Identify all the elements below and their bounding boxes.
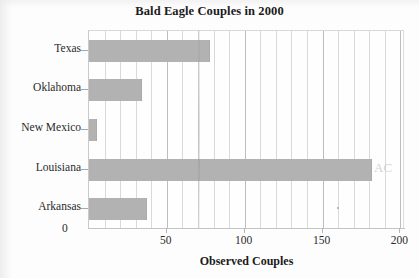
- x-tick-mark: [399, 228, 400, 233]
- plot-area: [88, 30, 404, 228]
- y-tick-label-arkansas: Arkansas: [38, 200, 81, 212]
- x-tick-label-100: 100: [235, 234, 252, 246]
- y-axis-origin-label: 0: [62, 222, 68, 234]
- x-tick-mark: [244, 228, 245, 233]
- x-axis-line: [88, 228, 405, 229]
- x-tick-mark: [166, 228, 167, 233]
- chart-figure: Bald Eagle Couples in 2000 ArkansasLouis…: [0, 0, 419, 278]
- chart-title: Bald Eagle Couples in 2000: [0, 4, 419, 19]
- x-axis-title: Observed Couples: [88, 254, 405, 269]
- y-tick-label-oklahoma: Oklahoma: [33, 81, 81, 93]
- bar-row: [89, 119, 403, 141]
- y-tick-label-new-mexico: New Mexico: [21, 121, 81, 133]
- x-tick-label-150: 150: [313, 234, 330, 246]
- x-tick-label-50: 50: [160, 234, 172, 246]
- bar-row: [89, 159, 403, 181]
- bar-oklahoma[interactable]: [89, 79, 142, 101]
- bar-series: [89, 31, 403, 228]
- y-tick-mark: [81, 129, 88, 130]
- bar-row: [89, 40, 403, 62]
- bar-new-mexico[interactable]: [89, 119, 97, 141]
- y-tick-label-louisiana: Louisiana: [36, 161, 81, 173]
- scan-edge-shading: [0, 0, 12, 278]
- bar-louisiana[interactable]: [89, 159, 372, 181]
- bar-texas[interactable]: [89, 40, 210, 62]
- bar-row: [89, 198, 403, 220]
- bar-arkansas[interactable]: [89, 198, 147, 220]
- y-tick-mark: [81, 50, 88, 51]
- y-tick-mark: [81, 208, 88, 209]
- y-tick-mark: [81, 89, 88, 90]
- x-tick-label-200: 200: [391, 234, 408, 246]
- x-tick-mark: [322, 228, 323, 233]
- bar-row: [89, 79, 403, 101]
- y-tick-label-texas: Texas: [54, 42, 81, 54]
- y-tick-mark: [81, 169, 88, 170]
